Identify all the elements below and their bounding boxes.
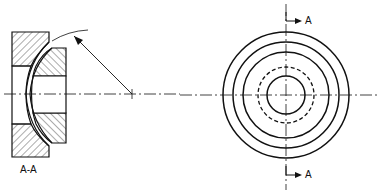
radius-arc (52, 30, 88, 41)
technical-drawing: A-A A A (0, 0, 377, 193)
cut-label-bottom: A (305, 169, 312, 180)
front-view (180, 4, 377, 190)
outer-body-middle (12, 66, 31, 124)
drawing-svg (0, 0, 377, 193)
radius-dimension-line (74, 36, 132, 94)
cut-arrow-bottom (295, 172, 302, 178)
cut-arrow-top (295, 18, 302, 24)
section-view (4, 30, 180, 157)
section-label: A-A (20, 164, 37, 175)
insert-bore (32, 76, 67, 113)
cut-label-top: A (305, 15, 312, 26)
